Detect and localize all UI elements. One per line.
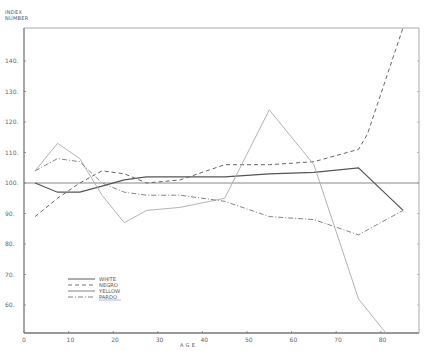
- x-tick-label: 20: [111, 336, 119, 343]
- x-tick-label: 70: [334, 336, 342, 343]
- y-tick-label: 140.: [5, 57, 18, 64]
- x-tick-label: 0: [22, 336, 26, 343]
- x-tick-label: 10: [67, 336, 75, 343]
- series-negro: [35, 28, 403, 217]
- x-tick-label: 80: [379, 336, 387, 343]
- legend: WHITENEGROYELLOWPARDO: [68, 276, 121, 300]
- y-axis-label-2: NUMBER: [5, 15, 29, 21]
- series-white: [35, 168, 403, 211]
- plot-frame: [24, 28, 419, 333]
- x-tick-label: 30: [156, 336, 164, 343]
- y-tick-label: 70.: [5, 271, 15, 278]
- y-tick-label: 120.: [5, 118, 18, 125]
- y-tick-label: 90.: [5, 210, 15, 217]
- x-tick-label: 50: [245, 336, 253, 343]
- series-yellow: [35, 110, 385, 333]
- y-tick-label: 130.: [5, 88, 18, 95]
- line-chart: 0102030405060708060.70.80.90.100.110.120…: [0, 0, 429, 351]
- legend-label-pardo: PARDO: [99, 294, 117, 300]
- y-tick-label: 110.: [5, 149, 18, 156]
- x-tick-label: 40: [200, 336, 208, 343]
- x-tick-label: 60: [290, 336, 298, 343]
- y-tick-label: 80.: [5, 240, 15, 247]
- series-pardo: [35, 159, 403, 235]
- x-axis-label: A G E: [180, 342, 195, 348]
- y-tick-label: 100.: [5, 179, 18, 186]
- y-tick-label: 60.: [5, 301, 15, 308]
